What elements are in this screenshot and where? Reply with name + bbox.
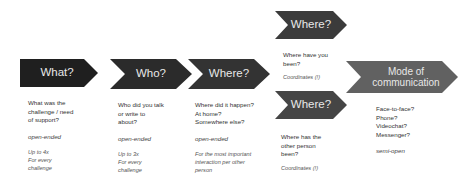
step-where-title: Where? [188, 59, 270, 89]
step-question: Where have you been? [283, 51, 348, 68]
step-note: Coordinates (!) [281, 165, 346, 173]
step-where-other-chevron: Where? [275, 91, 347, 119]
step-kind: open-ended [118, 135, 188, 144]
step-mode-title: Mode of communication [346, 61, 458, 93]
step-who-title: Who? [110, 59, 192, 89]
step-where-chevron: Where? [188, 59, 270, 89]
step-mode-details: Face-to-face? Phone? Videochat? Messenge… [376, 105, 456, 156]
step-what-title: What? [20, 59, 100, 87]
step-where-details: Where did it happen? At home? Somewhere … [195, 101, 275, 174]
step-kind: open-ended [28, 133, 108, 142]
step-note: Coordinates (!) [283, 74, 348, 82]
step-question: Who did you talk or write to about? [118, 101, 188, 127]
step-question: What was the challenge / need of support… [28, 99, 108, 125]
step-kind: open-ended [195, 135, 275, 144]
step-mode-chevron: Mode of communication [346, 61, 458, 93]
step-what-details: What was the challenge / need of support… [28, 99, 108, 172]
step-who-details: Who did you talk or write to about? open… [118, 101, 188, 174]
step-where-self-details: Where have you been? Coordinates (!) [283, 51, 348, 82]
step-question: Where has the other person been? [281, 133, 346, 159]
step-who-chevron: Who? [110, 59, 192, 89]
step-where-self-chevron: Where? [275, 11, 347, 39]
step-where-other-title: Where? [275, 91, 347, 119]
step-what-chevron: What? [20, 59, 100, 87]
step-question: Face-to-face? Phone? Videochat? Messenge… [376, 105, 456, 139]
step-question: Where did it happen? At home? Somewhere … [195, 101, 275, 127]
step-note: Up to 4x For every challenge [28, 149, 108, 172]
step-note: Up to 3x For every challenge [118, 151, 188, 174]
step-where-self-title: Where? [275, 11, 347, 39]
step-where-other-details: Where has the other person been? Coordin… [281, 133, 346, 172]
step-note: For the most important interaction per o… [195, 151, 275, 174]
step-kind: semi-open [376, 147, 456, 156]
